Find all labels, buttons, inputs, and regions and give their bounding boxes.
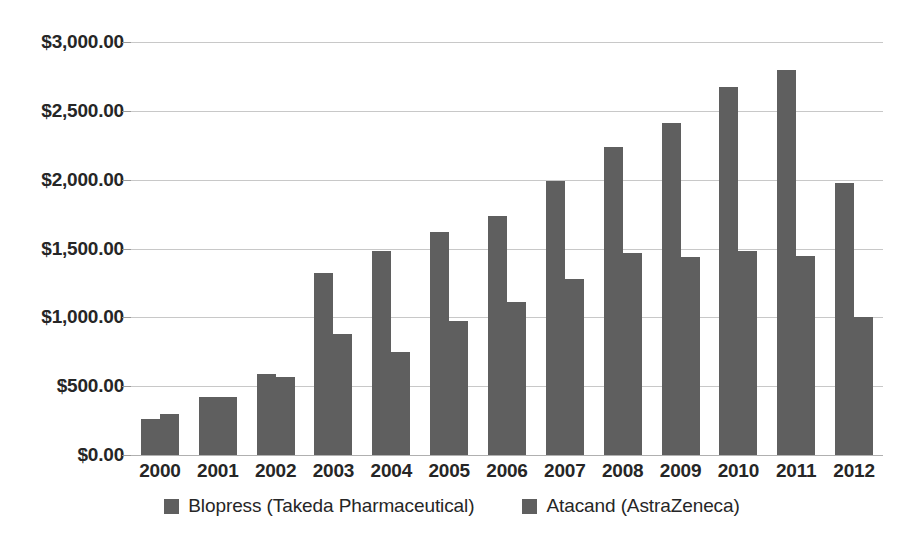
bar-2008-series-1[interactable]	[623, 253, 642, 455]
bar-group-2011	[777, 42, 815, 455]
x-axis-label-2005: 2005	[420, 460, 478, 482]
y-axis-tick	[122, 455, 131, 456]
bar-2009-series-1[interactable]	[681, 257, 700, 455]
bar-2009-series-0[interactable]	[662, 123, 681, 455]
bar-group-2010	[719, 42, 757, 455]
bar-2007-series-1[interactable]	[565, 279, 584, 455]
x-axis: 2000200120022003200420052006200720082009…	[131, 460, 883, 490]
y-axis-tick	[122, 111, 131, 112]
bar-2002-series-1[interactable]	[276, 377, 295, 455]
y-axis-tick	[122, 317, 131, 318]
legend-item-0[interactable]: Blopress (Takeda Pharmaceutical)	[164, 495, 474, 517]
x-axis-label-2010: 2010	[709, 460, 767, 482]
x-axis-label-2004: 2004	[362, 460, 420, 482]
bar-group-2007	[546, 42, 584, 455]
legend-swatch-atacand	[522, 499, 537, 514]
bar-2003-series-0[interactable]	[314, 273, 333, 455]
bar-group-2000	[141, 42, 179, 455]
bar-2008-series-0[interactable]	[604, 147, 623, 455]
legend-swatch-blopress	[164, 499, 179, 514]
x-axis-label-2006: 2006	[478, 460, 536, 482]
bar-2012-series-0[interactable]	[835, 183, 854, 455]
x-axis-label-2011: 2011	[767, 460, 825, 482]
bar-2004-series-1[interactable]	[391, 352, 410, 455]
bar-groups	[131, 42, 883, 455]
bar-2007-series-0[interactable]	[546, 181, 565, 455]
bar-group-2009	[662, 42, 700, 455]
bar-2010-series-0[interactable]	[719, 87, 738, 455]
y-axis-label: $1,000.00	[6, 306, 124, 328]
x-axis-label-2000: 2000	[131, 460, 189, 482]
bar-2002-series-0[interactable]	[257, 374, 276, 455]
bar-group-2004	[372, 42, 410, 455]
gridline-000	[131, 455, 883, 456]
y-axis-label: $500.00	[6, 375, 124, 397]
y-axis-label: $3,000.00	[6, 31, 124, 53]
bar-2011-series-0[interactable]	[777, 70, 796, 455]
bar-2011-series-1[interactable]	[796, 256, 815, 455]
x-axis-label-2007: 2007	[536, 460, 594, 482]
bar-group-2001	[199, 42, 237, 455]
bar-2004-series-0[interactable]	[372, 251, 391, 455]
y-axis-label: $2,000.00	[6, 169, 124, 191]
legend-item-1[interactable]: Atacand (AstraZeneca)	[522, 495, 739, 517]
bar-2006-series-0[interactable]	[488, 216, 507, 455]
x-axis-label-2009: 2009	[652, 460, 710, 482]
y-axis-tick	[122, 42, 131, 43]
y-axis-tick	[122, 249, 131, 250]
bar-group-2003	[314, 42, 352, 455]
bar-2010-series-1[interactable]	[738, 251, 757, 455]
x-axis-label-2003: 2003	[304, 460, 362, 482]
x-axis-label-2002: 2002	[247, 460, 305, 482]
bar-group-2012	[835, 42, 873, 455]
y-axis-label: $0.00	[6, 444, 124, 466]
bar-2000-series-1[interactable]	[160, 414, 179, 455]
bar-2003-series-1[interactable]	[333, 334, 352, 455]
y-axis-tick	[122, 386, 131, 387]
bar-2001-series-0[interactable]	[199, 397, 218, 455]
x-axis-label-2001: 2001	[189, 460, 247, 482]
bar-group-2005	[430, 42, 468, 455]
bar-group-2006	[488, 42, 526, 455]
bar-group-2008	[604, 42, 642, 455]
bar-chart: $0.00$500.00$1,000.00$1,500.00$2,000.00$…	[0, 0, 904, 547]
x-axis-label-2012: 2012	[825, 460, 883, 482]
y-axis-tick	[122, 180, 131, 181]
bar-2001-series-1[interactable]	[218, 397, 237, 455]
x-axis-label-2008: 2008	[594, 460, 652, 482]
y-axis: $0.00$500.00$1,000.00$1,500.00$2,000.00$…	[0, 0, 124, 547]
bar-2005-series-1[interactable]	[449, 321, 468, 455]
y-axis-label: $1,500.00	[6, 238, 124, 260]
bar-2006-series-1[interactable]	[507, 302, 526, 455]
chart-legend: Blopress (Takeda Pharmaceutical)Atacand …	[0, 495, 904, 517]
legend-label: Atacand (AstraZeneca)	[546, 495, 739, 517]
bar-group-2002	[257, 42, 295, 455]
bar-2012-series-1[interactable]	[854, 317, 873, 455]
bar-2000-series-0[interactable]	[141, 419, 160, 455]
y-axis-label: $2,500.00	[6, 100, 124, 122]
legend-label: Blopress (Takeda Pharmaceutical)	[188, 495, 474, 517]
bar-2005-series-0[interactable]	[430, 232, 449, 455]
